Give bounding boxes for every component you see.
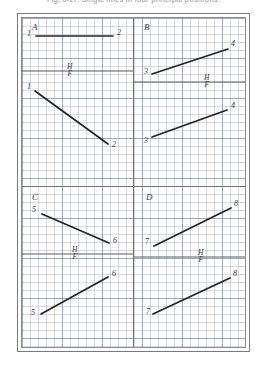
panel-b-top-view-start-label: 3 bbox=[144, 68, 148, 76]
figure-caption-strip: Fig. 6-27. Single lines in four principa… bbox=[0, 0, 267, 6]
panel-b-top-view-line bbox=[152, 49, 228, 74]
panel-b-letter: B bbox=[144, 23, 150, 32]
panel-c-hf-label: H F bbox=[72, 246, 77, 261]
panel-c-front-view-line bbox=[41, 277, 108, 314]
quadrant-divider-horizontal bbox=[22, 186, 245, 187]
panel-a-letter: A bbox=[32, 23, 38, 32]
panel-a-hf-label: H F bbox=[67, 63, 72, 78]
panel-d-hf-label: H F bbox=[198, 249, 203, 264]
panel-b-f-label: F bbox=[204, 81, 209, 89]
panel-d-f-label: F bbox=[198, 256, 203, 264]
panel-b-top-view-end-label: 4 bbox=[231, 40, 235, 48]
panel-d-top-view-start-label: 7 bbox=[145, 238, 149, 246]
drawing-sheet: A 1 2 1 2 H F B 3 4 3 4 H F C 5 6 5 6 H … bbox=[21, 17, 246, 348]
panel-a-group bbox=[22, 36, 133, 144]
panel-a-front-view-line bbox=[35, 91, 108, 144]
panel-a-front-view-start-label: 1 bbox=[27, 83, 31, 91]
panel-c-top-view-line bbox=[42, 214, 109, 243]
panel-b-group bbox=[134, 49, 246, 137]
panel-d-front-view-start-label: 7 bbox=[146, 308, 150, 316]
projection-lines-overlay bbox=[22, 18, 246, 348]
panel-a-top-view-end-label: 2 bbox=[117, 29, 121, 37]
panel-b-front-view-start-label: 3 bbox=[144, 137, 148, 145]
panel-c-group bbox=[22, 214, 133, 314]
panel-a-top-view-start-label: 1 bbox=[27, 30, 31, 38]
panel-b-hf-label: H F bbox=[204, 74, 209, 89]
quadrant-divider-vertical bbox=[133, 18, 134, 347]
panel-c-top-view-start-label: 5 bbox=[32, 206, 36, 214]
panel-c-letter: C bbox=[32, 193, 38, 202]
panel-c-top-view-end-label: 6 bbox=[113, 237, 117, 245]
panel-a-front-view-end-label: 2 bbox=[112, 141, 116, 149]
panel-c-f-label: F bbox=[72, 253, 77, 261]
panel-d-front-view-end-label: 8 bbox=[233, 270, 237, 278]
figure-caption: Fig. 6-27. Single lines in four principa… bbox=[0, 0, 267, 6]
panel-c-front-view-start-label: 5 bbox=[31, 309, 35, 317]
panel-a-f-label: F bbox=[67, 70, 72, 78]
panel-d-top-view-line bbox=[154, 208, 231, 246]
panel-d-group bbox=[134, 208, 246, 314]
panel-d-top-view-end-label: 8 bbox=[234, 200, 238, 208]
panel-d-letter: D bbox=[146, 193, 153, 202]
panel-b-front-view-line bbox=[152, 110, 227, 137]
panel-b-front-view-end-label: 4 bbox=[231, 102, 235, 110]
panel-d-front-view-line bbox=[153, 278, 230, 314]
panel-c-front-view-end-label: 6 bbox=[112, 270, 116, 278]
